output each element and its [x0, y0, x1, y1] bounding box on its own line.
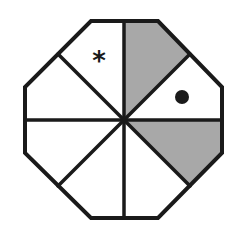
- asterisk-marker: *: [92, 46, 106, 76]
- dot-marker: [175, 90, 189, 104]
- octagon-svg: *: [0, 0, 245, 227]
- octagon-diagram: *: [0, 0, 245, 227]
- divider-lines: [25, 21, 222, 218]
